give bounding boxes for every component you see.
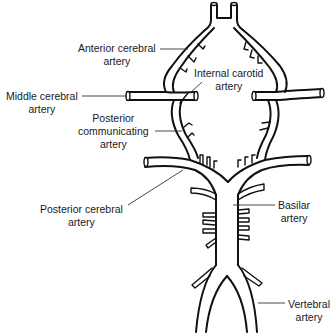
circle-of-willis-diagram [0, 0, 335, 334]
label-internal-carotid-artery: Internal carotid artery [194, 67, 263, 93]
label-anterior-cerebral-artery: Anterior cerebral artery [78, 42, 156, 68]
posterior-cerebral-vessels [144, 155, 311, 195]
anterior-communicating-stubs [205, 3, 243, 31]
vertebral-vessels [192, 265, 262, 332]
label-basilar-artery: Basilar artery [278, 199, 310, 225]
left-posterior-communicating-vessel [172, 100, 198, 160]
basilar-vessel [191, 184, 264, 265]
label-posterior-cerebral-artery: Posterior cerebral artery [40, 203, 123, 229]
label-posterior-communicating-artery: Posterior communicating artery [78, 112, 149, 151]
label-middle-cerebral-artery: Middle cerebral artery [6, 90, 78, 116]
label-vertebral-artery: Vertebral artery [288, 298, 330, 324]
right-posterior-communicating-vessel [257, 100, 279, 160]
left-middle-cerebral-vessel [126, 92, 198, 104]
